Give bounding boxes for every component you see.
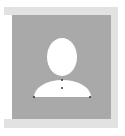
anchor-point-icon bbox=[33, 96, 35, 98]
frame-gap bbox=[4, 15, 12, 119]
anchor-point-icon bbox=[61, 87, 63, 89]
anchor-point-icon bbox=[89, 96, 91, 98]
anchor-point-icon bbox=[61, 79, 63, 81]
silhouette-head-icon bbox=[47, 38, 77, 76]
